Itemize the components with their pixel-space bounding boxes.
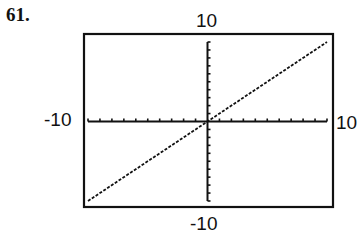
graph-window [0,0,364,238]
